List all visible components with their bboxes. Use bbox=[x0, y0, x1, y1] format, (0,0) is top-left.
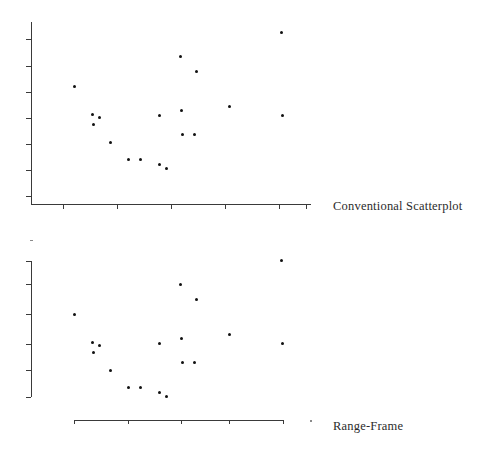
y-axis-tick bbox=[26, 314, 31, 315]
data-point bbox=[92, 123, 95, 126]
data-point bbox=[193, 133, 196, 136]
data-point bbox=[180, 337, 183, 340]
data-point bbox=[139, 158, 142, 161]
data-point bbox=[228, 105, 231, 108]
data-point bbox=[280, 259, 283, 262]
x-axis-tick bbox=[74, 420, 75, 424]
caption-range-frame: Range-Frame bbox=[333, 419, 403, 434]
x-axis-tick bbox=[283, 420, 284, 424]
y-axis-tick bbox=[26, 66, 31, 67]
y-axis-tick bbox=[26, 144, 31, 145]
data-point bbox=[109, 141, 112, 144]
y-axis-tick bbox=[26, 284, 31, 285]
data-point bbox=[165, 167, 168, 170]
x-axis-line-range-frame bbox=[74, 420, 282, 421]
y-axis-tick bbox=[26, 196, 31, 197]
panel-conventional-scatterplot bbox=[0, 0, 330, 215]
y-axis-line-conventional bbox=[31, 22, 32, 204]
data-point bbox=[158, 342, 161, 345]
data-point bbox=[91, 341, 94, 344]
data-point bbox=[180, 109, 183, 112]
x-axis-tick bbox=[225, 204, 226, 209]
data-point bbox=[158, 163, 161, 166]
y-axis-tick bbox=[26, 118, 31, 119]
data-point bbox=[195, 298, 198, 301]
data-point bbox=[179, 55, 182, 58]
data-point bbox=[181, 361, 184, 364]
x-axis-tick bbox=[63, 204, 64, 209]
y-axis-outer-tick-range-frame bbox=[30, 240, 33, 241]
y-axis-tick bbox=[26, 92, 31, 93]
tufte-range-frame-figure: Conventional Scatterplot Range-Frame bbox=[0, 0, 492, 455]
x-axis-tick bbox=[306, 204, 307, 209]
x-axis-tick bbox=[181, 420, 182, 424]
data-point bbox=[165, 395, 168, 398]
data-point bbox=[181, 133, 184, 136]
data-point bbox=[127, 386, 130, 389]
data-point bbox=[179, 283, 182, 286]
x-axis-outer-tick-range-frame bbox=[310, 420, 312, 422]
x-axis-tick bbox=[128, 420, 129, 424]
y-axis-tick bbox=[26, 170, 31, 171]
data-point bbox=[158, 114, 161, 117]
data-point bbox=[92, 351, 95, 354]
y-axis-tick bbox=[26, 397, 31, 398]
data-point bbox=[98, 344, 101, 347]
x-axis-tick bbox=[171, 204, 172, 209]
y-axis-tick bbox=[26, 39, 31, 40]
data-point bbox=[127, 158, 130, 161]
y-axis-tick bbox=[26, 261, 31, 262]
x-axis-tick bbox=[117, 204, 118, 209]
data-point bbox=[281, 342, 284, 345]
data-point bbox=[281, 114, 284, 117]
y-axis-tick bbox=[26, 370, 31, 371]
data-point bbox=[228, 333, 231, 336]
data-point bbox=[158, 391, 161, 394]
data-point bbox=[91, 113, 94, 116]
data-point bbox=[73, 313, 76, 316]
x-axis-tick bbox=[229, 420, 230, 424]
data-point bbox=[139, 386, 142, 389]
data-point bbox=[98, 116, 101, 119]
data-point bbox=[109, 369, 112, 372]
data-point bbox=[73, 85, 76, 88]
data-point bbox=[280, 31, 283, 34]
x-axis-tick bbox=[279, 204, 280, 209]
data-point bbox=[195, 70, 198, 73]
panel-range-frame bbox=[0, 228, 330, 443]
caption-conventional-scatterplot: Conventional Scatterplot bbox=[333, 199, 462, 214]
y-axis-line-range-frame bbox=[31, 261, 32, 397]
y-axis-tick bbox=[26, 344, 31, 345]
data-point bbox=[193, 361, 196, 364]
